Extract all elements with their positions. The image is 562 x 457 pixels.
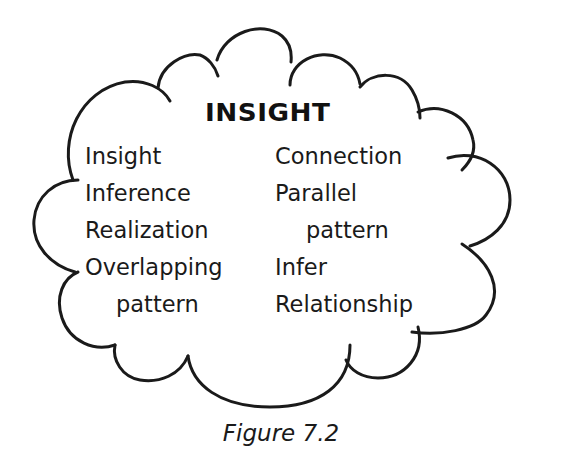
term-item: Infer [275,256,327,279]
term-item: Inference [85,182,191,205]
term-item: Connection [275,145,402,168]
term-item: Relationship [275,293,413,316]
figure-caption: Figure 7.2 [0,420,562,446]
term-item: Parallel [275,182,357,205]
term-item: Insight [85,145,161,168]
cloud-heading: INSIGHT [205,98,331,127]
term-item-continuation: pattern [306,219,389,242]
term-item-continuation: pattern [116,293,199,316]
term-item: Overlapping [85,256,223,279]
term-item: Realization [85,219,208,242]
figure: INSIGHT Insight Inference Realization Ov… [0,0,562,457]
